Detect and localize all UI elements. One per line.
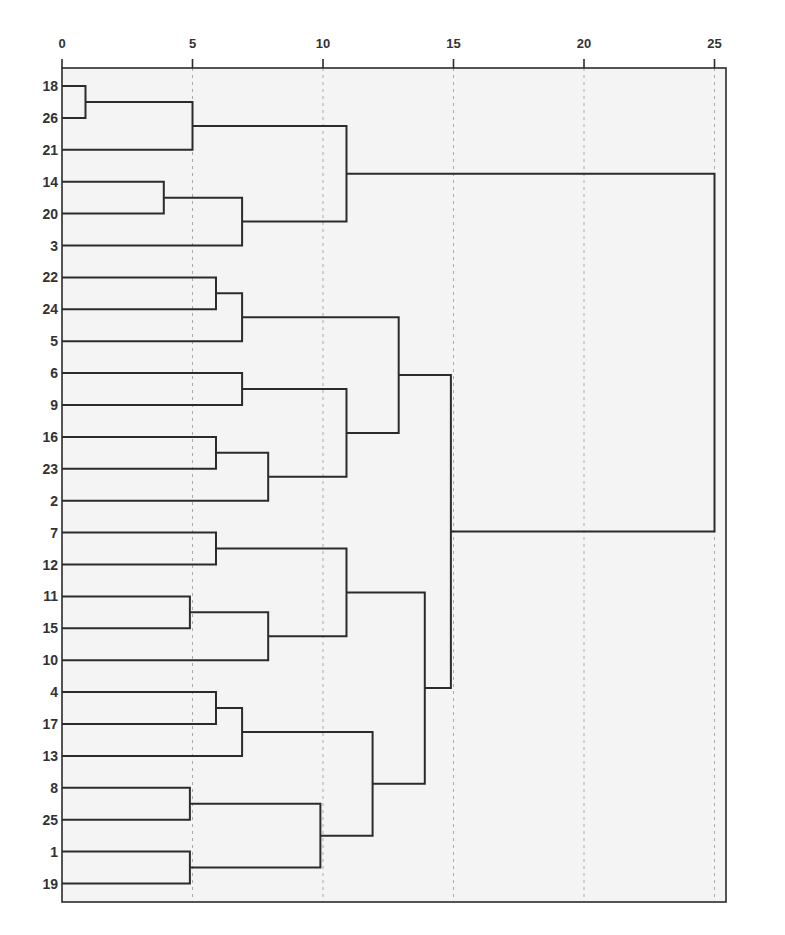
leaf-label: 22	[42, 269, 58, 285]
leaf-label: 11	[43, 588, 58, 604]
leaf-label: 24	[42, 301, 58, 317]
x-axis: 0510152025	[58, 36, 721, 68]
leaf-label: 25	[42, 812, 58, 828]
leaf-label: 1	[50, 844, 58, 860]
leaf-label: 4	[50, 684, 58, 700]
x-tick-label: 10	[316, 36, 330, 51]
leaf-label: 10	[42, 652, 58, 668]
leaf-label: 18	[42, 78, 58, 94]
leaf-label: 8	[50, 780, 58, 796]
leaf-label: 13	[42, 748, 58, 764]
dendrogram-chart: 0510152025 18262114203222456916232712111…	[0, 0, 785, 935]
leaf-label: 5	[50, 333, 58, 349]
x-tick-label: 0	[58, 36, 65, 51]
leaf-label: 12	[42, 557, 58, 573]
leaf-label: 19	[42, 876, 58, 892]
leaf-label: 15	[42, 620, 58, 636]
leaf-label: 2	[50, 493, 58, 509]
leaf-label: 21	[42, 142, 58, 158]
x-tick-label: 15	[446, 36, 460, 51]
leaf-label: 9	[50, 397, 58, 413]
leaf-label: 17	[42, 716, 58, 732]
x-tick-label: 20	[577, 36, 591, 51]
leaf-labels: 1826211420322245691623271211151041713825…	[42, 78, 58, 892]
leaf-label: 20	[42, 206, 58, 222]
x-tick-label: 25	[707, 36, 721, 51]
plot-background	[62, 68, 726, 902]
leaf-label: 7	[50, 525, 58, 541]
leaf-label: 23	[42, 461, 58, 477]
leaf-label: 14	[42, 174, 58, 190]
leaf-label: 26	[42, 110, 58, 126]
x-tick-label: 5	[189, 36, 196, 51]
leaf-label: 6	[50, 365, 58, 381]
leaf-label: 16	[42, 429, 58, 445]
leaf-label: 3	[50, 238, 58, 254]
